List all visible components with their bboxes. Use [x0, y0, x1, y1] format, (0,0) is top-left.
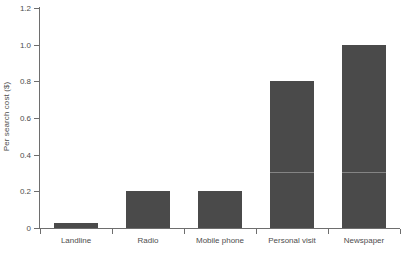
y-axis-tick	[34, 191, 39, 192]
y-axis-tick-label-text: 1.0	[0, 40, 31, 49]
x-axis-category-label: Radio	[112, 236, 184, 245]
bar[interactable]	[342, 45, 386, 228]
x-axis-tick	[40, 229, 41, 234]
y-axis-tick	[34, 118, 39, 119]
y-axis-tick	[34, 81, 39, 82]
x-axis-category-label: Personal visit	[256, 236, 328, 245]
bar[interactable]	[126, 191, 170, 228]
x-axis-tick	[328, 229, 329, 234]
y-axis-tick-label-text: 0.8	[0, 77, 31, 86]
plot-area	[40, 8, 400, 228]
bar[interactable]	[198, 191, 242, 228]
scan-artifact-line	[270, 172, 314, 173]
x-axis-category-label: Landline	[40, 236, 112, 245]
bar[interactable]	[54, 223, 98, 229]
y-axis-tick	[34, 45, 39, 46]
x-axis-tick	[400, 229, 401, 234]
y-axis-tick-label-text: 0.4	[0, 150, 31, 159]
x-axis-category-label: Mobile phone	[184, 236, 256, 245]
x-axis-category-label: Newspaper	[328, 236, 400, 245]
y-axis-tick-label-text: 0.6	[0, 114, 31, 123]
bar-chart-figure: Per search cost ($) 00.20.40.60.81.01.2 …	[0, 0, 406, 258]
x-axis-tick	[256, 229, 257, 234]
x-axis-line	[39, 228, 400, 229]
x-axis-tick	[184, 229, 185, 234]
bar[interactable]	[270, 81, 314, 228]
y-axis-tick	[34, 228, 39, 229]
scan-artifact-line	[342, 172, 386, 173]
y-axis-tick-label-text: 1.2	[0, 4, 31, 13]
y-axis-tick-label-text: 0	[0, 224, 31, 233]
y-axis-tick	[34, 155, 39, 156]
y-axis-tick-label-text: 0.2	[0, 187, 31, 196]
y-axis-tick	[34, 8, 39, 9]
x-axis-tick	[112, 229, 113, 234]
